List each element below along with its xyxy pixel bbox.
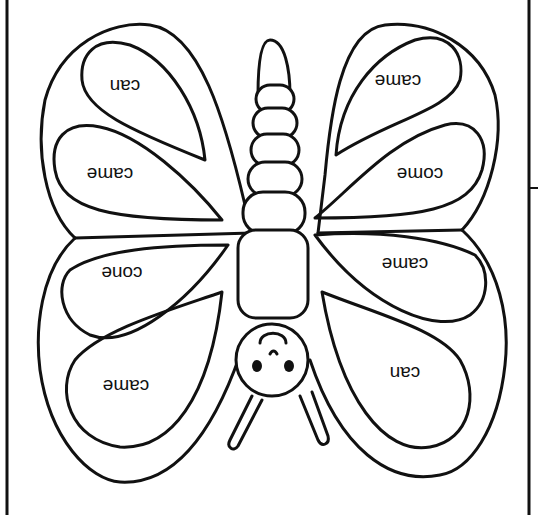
upper-left-outer-lobe[interactable] [82, 42, 205, 160]
head-circle [236, 324, 308, 396]
word-lower-left-outer: cone [101, 263, 142, 284]
butterfly-body [238, 40, 308, 318]
word-upper-left-outer: can [110, 76, 141, 97]
right-antenna [300, 392, 328, 444]
upper-right-wing [315, 24, 498, 233]
word-upper-left-inner: came [87, 164, 133, 185]
word-upper-right-outer: came [375, 71, 421, 92]
right-eye [284, 360, 294, 372]
word-upper-right-inner: come [397, 164, 443, 185]
butterfly-drawing: can came came come cone came came can [0, 0, 538, 515]
lower-left-outer-lobe[interactable] [62, 245, 228, 338]
word-lower-right-inner: can [390, 363, 421, 384]
left-antenna [229, 396, 262, 449]
lower-right-outer-lobe[interactable] [315, 234, 486, 322]
word-lower-right-outer: came [382, 254, 428, 275]
left-eye [252, 360, 262, 372]
worksheet-page: can came came come cone came came can [0, 0, 538, 515]
upper-left-inner-lobe[interactable] [54, 126, 222, 220]
body-thorax [238, 230, 308, 318]
upper-right-outer-lobe[interactable] [336, 38, 461, 155]
upper-left-wing [41, 24, 252, 238]
lower-left-inner-lobe[interactable] [66, 292, 222, 447]
word-lower-left-inner: came [103, 376, 149, 397]
butterfly-head [229, 324, 328, 449]
body-segment-5 [243, 192, 305, 234]
